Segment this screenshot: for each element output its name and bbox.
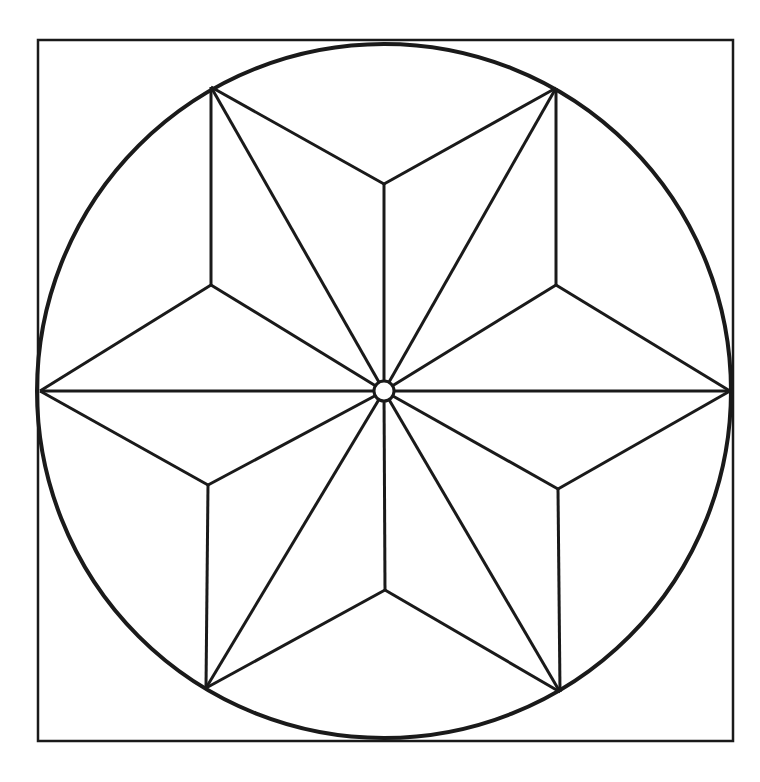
spoke-line-top-right <box>384 88 556 391</box>
inner-spoke-upper-left <box>211 285 384 391</box>
rhombus-edge-bottom-left-lower-left <box>206 485 208 688</box>
spoke-line-bottom-left <box>206 391 384 688</box>
spoke-line-top-left <box>211 87 384 391</box>
rhombus-edge-bottom-left-bottom <box>206 590 385 688</box>
rhombus-edge-bottom-right-bottom <box>385 590 560 692</box>
inner-spoke-lower-right <box>384 391 558 489</box>
rhombus-edge-left-upper-left <box>40 285 211 391</box>
center-hole <box>374 381 394 401</box>
rhombus-edge-right-upper-right <box>556 285 730 391</box>
inner-spoke-upper-right <box>384 285 556 391</box>
rosette-diagram <box>0 0 760 782</box>
diagram-canvas <box>0 0 760 782</box>
inner-spoke-bottom <box>384 391 385 590</box>
inner-spoke-lower-left <box>208 391 384 485</box>
rhombus-edge-left-lower-left <box>40 391 208 485</box>
rhombus-edge-right-lower-right <box>558 391 730 489</box>
rhombus-edge-bottom-right-lower-right <box>558 489 560 692</box>
spoke-line-bottom-right <box>384 391 560 692</box>
